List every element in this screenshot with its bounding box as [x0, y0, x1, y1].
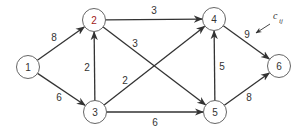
- edge-weight-label: 5: [219, 61, 225, 72]
- node-2: 2: [83, 9, 106, 32]
- node-1: 1: [17, 56, 40, 79]
- edge-3-to-2: [94, 32, 95, 101]
- edge-arrow-line: [37, 27, 84, 60]
- annotation-arrow: [256, 24, 270, 33]
- edge-arrow-line: [94, 32, 95, 101]
- annotation-subscript: ij: [279, 17, 283, 25]
- edge-arrow-line: [105, 19, 202, 20]
- edge-weight-label: 2: [122, 75, 128, 86]
- graph-diagram: 8623326598 123456 c ij: [0, 0, 306, 134]
- node-5: 5: [204, 101, 227, 124]
- edges-layer: [37, 19, 269, 112]
- edge-weight-label: 8: [51, 32, 57, 43]
- edge-weight-label: 6: [152, 117, 158, 128]
- cij-annotation: c ij: [256, 10, 283, 33]
- node-3: 3: [84, 101, 107, 124]
- annotation-text: c: [273, 10, 278, 21]
- node-label: 3: [92, 107, 98, 118]
- node-label: 5: [212, 107, 218, 118]
- edge-5-to-4: [214, 31, 215, 101]
- node-label: 1: [25, 62, 31, 73]
- edge-weight-label: 6: [56, 92, 62, 103]
- node-6: 6: [268, 55, 291, 78]
- edge-weight-label: 3: [132, 38, 138, 49]
- edge-weight-label: 2: [84, 62, 90, 73]
- edge-weight-label: 9: [244, 29, 250, 40]
- edge-2-to-4: [105, 19, 202, 20]
- edge-weight-label: 3: [151, 5, 157, 16]
- edge-weight-label: 8: [246, 92, 252, 103]
- node-4: 4: [203, 8, 226, 31]
- node-label: 2: [91, 15, 97, 26]
- edge-1-to-2: [37, 27, 84, 60]
- node-label: 4: [211, 14, 217, 25]
- node-label: 6: [276, 61, 282, 72]
- edge-arrow-line: [214, 31, 215, 101]
